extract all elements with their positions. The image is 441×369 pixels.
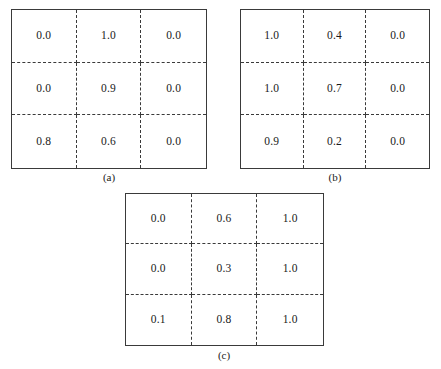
grid-cell: 0.0 <box>126 244 192 294</box>
grid-cell: 0.8 <box>12 115 77 168</box>
grid-cell: 0.0 <box>126 194 192 244</box>
grid-cell: 0.8 <box>192 295 258 345</box>
grid-cell: 1.0 <box>77 10 142 63</box>
grid-cell: 0.6 <box>77 115 142 168</box>
grid-cell: 0.0 <box>12 10 77 63</box>
grid-cell: 0.6 <box>192 194 258 244</box>
grid-panel-a: 0.0 1.0 0.0 0.0 0.9 0.0 0.8 0.6 0.0 <box>11 9 207 169</box>
grid-cell: 0.7 <box>304 63 367 116</box>
grid-cell: 0.9 <box>77 63 142 116</box>
panel-caption-b: (b) <box>329 172 342 183</box>
panel-caption-c: (c) <box>218 350 230 361</box>
grid-cell: 1.0 <box>257 244 323 294</box>
grid-cell: 1.0 <box>257 295 323 345</box>
grid-cell: 0.0 <box>12 63 77 116</box>
grid-cell: 0.4 <box>304 10 367 63</box>
grid-cell: 0.0 <box>141 115 206 168</box>
grid-cell: 1.0 <box>241 10 304 63</box>
grid-cell: 0.0 <box>141 63 206 116</box>
grid-cell: 0.9 <box>241 115 304 168</box>
grid-cell: 0.0 <box>366 63 429 116</box>
grid-cell: 1.0 <box>257 194 323 244</box>
grid-cell: 0.1 <box>126 295 192 345</box>
panel-caption-a: (a) <box>103 172 115 183</box>
figure-root: 0.0 1.0 0.0 0.0 0.9 0.0 0.8 0.6 0.0 (a) … <box>0 0 441 369</box>
grid-cell: 1.0 <box>241 63 304 116</box>
grid-cell: 0.3 <box>192 244 258 294</box>
grid-panel-c: 0.0 0.6 1.0 0.0 0.3 1.0 0.1 0.8 1.0 <box>125 193 324 346</box>
grid-cell: 0.0 <box>141 10 206 63</box>
grid-cell: 0.0 <box>366 10 429 63</box>
grid-cell: 0.2 <box>304 115 367 168</box>
grid-panel-b: 1.0 0.4 0.0 1.0 0.7 0.0 0.9 0.2 0.0 <box>240 9 430 169</box>
grid-cell: 0.0 <box>366 115 429 168</box>
